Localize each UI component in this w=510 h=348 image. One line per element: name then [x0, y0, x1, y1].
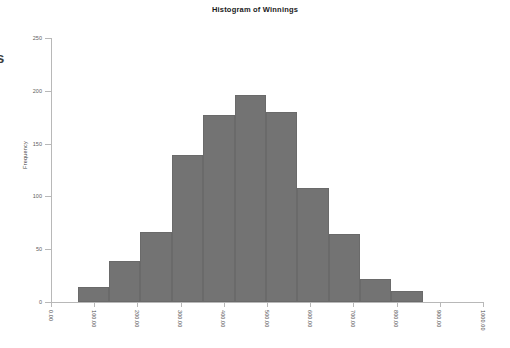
- plot-area: [51, 38, 483, 302]
- x-tick-label: 0.00: [48, 310, 54, 321]
- x-tick-mark: [267, 302, 268, 307]
- histogram-bar: [391, 291, 423, 302]
- x-tick-label: 900.00: [436, 310, 442, 327]
- y-tick-label: 150: [0, 141, 42, 147]
- histogram-chart: s Histogram of Winnings Frequency 050100…: [0, 0, 510, 348]
- x-tick-mark: [51, 302, 52, 307]
- histogram-bar: [297, 188, 329, 302]
- x-tick-label: 200.00: [134, 310, 140, 327]
- y-tick-label: 250: [0, 35, 42, 41]
- histogram-bar: [140, 232, 172, 302]
- histogram-bar: [203, 115, 235, 302]
- chart-title: Histogram of Winnings: [0, 5, 510, 14]
- x-tick-mark: [137, 302, 138, 307]
- x-tick-label: 100.00: [91, 310, 97, 327]
- x-tick-mark: [440, 302, 441, 307]
- histogram-bar: [172, 155, 203, 302]
- histogram-bar: [78, 287, 109, 302]
- x-tick-mark: [483, 302, 484, 307]
- x-tick-label: 700.00: [350, 310, 356, 327]
- histogram-bar: [266, 112, 297, 302]
- x-tick-label: 600.00: [307, 310, 313, 327]
- x-tick-label: 400.00: [220, 310, 226, 327]
- histogram-bar: [109, 261, 141, 302]
- y-tick-label: 50: [0, 246, 42, 252]
- x-tick-label: 800.00: [393, 310, 399, 327]
- cropped-text-fragment: s: [0, 47, 8, 69]
- y-tick-label: 0: [0, 299, 42, 305]
- histogram-bar: [329, 234, 361, 302]
- x-tick-mark: [181, 302, 182, 307]
- x-tick-mark: [310, 302, 311, 307]
- x-tick-label: 1000.00: [480, 310, 486, 331]
- histogram-bar: [360, 279, 391, 302]
- x-tick-mark: [224, 302, 225, 307]
- histogram-bar: [235, 95, 267, 302]
- x-tick-label: 300.00: [177, 310, 183, 327]
- x-tick-mark: [94, 302, 95, 307]
- y-tick-label: 100: [0, 193, 42, 199]
- x-tick-mark: [397, 302, 398, 307]
- y-axis-label: Frequency: [22, 125, 28, 185]
- x-tick-mark: [353, 302, 354, 307]
- x-tick-label: 500.00: [264, 310, 270, 327]
- y-tick-label: 200: [0, 88, 42, 94]
